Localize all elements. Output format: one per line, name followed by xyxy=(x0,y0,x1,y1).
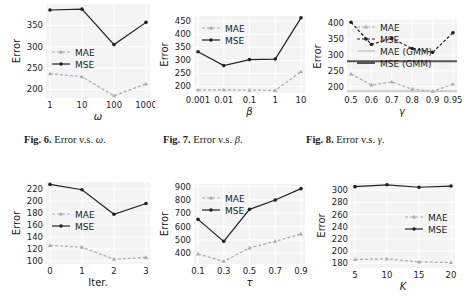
x-tick-label: 10 xyxy=(77,100,88,110)
x-tick-label: 1 xyxy=(273,95,278,105)
data-point xyxy=(48,8,52,12)
data-point xyxy=(299,187,303,191)
caption-fig8: Fig. 8. Error v.s. γ. xyxy=(306,134,384,145)
y-tick-label: 200 xyxy=(332,246,348,256)
x-tick-label: 15 xyxy=(414,270,425,280)
legend-label: MAE xyxy=(75,210,95,220)
y-axis-label: Error xyxy=(159,211,170,236)
x-tick-label: 1 xyxy=(79,266,84,276)
chart-omega: 2002503003501101001000ωErrorMAEMSE xyxy=(0,0,155,120)
data-point xyxy=(80,188,84,192)
legend-label: MAE xyxy=(225,24,245,34)
y-tick-label: 200 xyxy=(27,196,43,206)
x-tick-label: 3 xyxy=(143,266,148,276)
y-tick-label: 200 xyxy=(175,81,191,91)
y-axis-label: Error xyxy=(11,210,22,235)
y-axis-label: Error xyxy=(11,38,22,63)
y-tick-label: 400 xyxy=(175,248,191,258)
data-point xyxy=(353,185,357,189)
y-tick-label: 280 xyxy=(332,197,348,207)
x-tick-label: 10 xyxy=(382,270,393,280)
chart-k: 1802002202402602803005101520KErrorMAEMSE xyxy=(305,170,469,302)
y-tick-label: 120 xyxy=(27,244,43,254)
x-tick-label: 5 xyxy=(352,270,357,280)
y-tick-label: 900 xyxy=(175,182,191,192)
y-tick-label: 200 xyxy=(27,84,43,94)
chart-tau: 4005006007008009000.10.30.50.70.9τErrorM… xyxy=(150,170,310,302)
x-tick-label: 0 xyxy=(47,266,52,276)
y-tick-label: 250 xyxy=(328,66,344,76)
y-axis-label: Error xyxy=(316,212,327,237)
legend-label: MAE xyxy=(75,48,95,58)
chart-gamma-svg: 2002503003504000.50.60.70.80.90.95γError… xyxy=(305,0,469,120)
y-tick-label: 350 xyxy=(328,34,344,44)
legend-label: MAE xyxy=(428,213,448,223)
x-tick-label: 0.1 xyxy=(243,95,257,105)
y-tick-label: 250 xyxy=(27,63,43,73)
data-point xyxy=(144,21,148,25)
data-point xyxy=(222,240,226,244)
y-tick-label: 160 xyxy=(27,220,43,230)
legend-label: MSE xyxy=(380,35,399,45)
x-axis-label: γ xyxy=(399,106,406,117)
caption-fig8-label: Fig. 8. xyxy=(306,134,334,145)
caption-fig7-label: Fig. 7. xyxy=(163,134,191,145)
caption-fig7: Fig. 7. Error v.s. β. xyxy=(163,134,243,145)
chart-tau-svg: 4005006007008009000.10.30.50.70.9τErrorM… xyxy=(150,170,310,302)
y-tick-label: 300 xyxy=(328,50,344,60)
y-tick-label: 240 xyxy=(332,222,348,232)
x-tick-label: 0.7 xyxy=(268,266,282,276)
y-tick-label: 300 xyxy=(27,42,43,52)
data-point xyxy=(385,183,389,187)
y-tick-label: 350 xyxy=(27,20,43,30)
y-tick-label: 220 xyxy=(332,234,348,244)
x-axis-label: τ xyxy=(246,277,253,288)
x-tick-label: 1 xyxy=(47,100,52,110)
x-axis-label: ω xyxy=(94,111,102,120)
y-tick-label: 300 xyxy=(332,185,348,195)
x-axis-label: K xyxy=(400,281,408,292)
y-axis-label: Error xyxy=(159,41,170,66)
legend-label: MSE xyxy=(75,222,94,232)
chart-k-svg: 1802002202402602803005101520KErrorMAEMSE xyxy=(305,170,469,302)
data-point xyxy=(248,208,252,212)
chart-beta-svg: 2002503003504004500.0010.010.1110βErrorM… xyxy=(150,0,310,120)
plot-area xyxy=(46,182,150,264)
chart-beta: 2002503003504004500.0010.010.1110βErrorM… xyxy=(150,0,310,120)
chart-iter: 1001201401601802002200123Iter.ErrorMAEMS… xyxy=(0,170,155,302)
data-point xyxy=(370,43,374,47)
data-point xyxy=(196,218,200,222)
data-point xyxy=(273,57,277,61)
legend-label: MSE xyxy=(428,225,447,235)
data-point xyxy=(112,213,116,217)
legend-label: MAE xyxy=(380,23,400,33)
x-tick-label: 2 xyxy=(111,266,116,276)
data-point xyxy=(449,184,453,188)
legend-label: MSE (GMM) xyxy=(380,59,432,69)
x-tick-label: 0.9 xyxy=(426,95,440,105)
data-point xyxy=(349,20,353,24)
chart-iter-svg: 1001201401601802002200123Iter.ErrorMAEMS… xyxy=(0,170,155,302)
y-tick-label: 100 xyxy=(27,256,43,266)
x-tick-label: 0.001 xyxy=(186,95,210,105)
x-tick-label: 0.01 xyxy=(214,95,233,105)
x-axis-label: β xyxy=(245,106,253,117)
x-tick-label: 0.95 xyxy=(444,95,463,105)
y-tick-label: 700 xyxy=(175,208,191,218)
x-tick-label: 0.3 xyxy=(217,266,231,276)
y-tick-label: 350 xyxy=(175,42,191,52)
data-point xyxy=(451,31,455,35)
caption-fig6: Fig. 6. Error v.s. ω. xyxy=(24,134,106,145)
legend-label: MAE xyxy=(225,194,245,204)
y-tick-label: 180 xyxy=(332,258,348,268)
x-tick-label: 100 xyxy=(106,100,122,110)
data-point xyxy=(48,183,52,187)
data-point xyxy=(196,50,200,54)
x-tick-label: 20 xyxy=(446,270,457,280)
legend-label: MAE (GMM) xyxy=(380,47,432,57)
data-point xyxy=(80,7,84,11)
y-axis-label: Error xyxy=(312,43,323,68)
x-tick-label: 0.5 xyxy=(344,95,358,105)
chart-omega-svg: 2002503003501101001000ωErrorMAEMSE xyxy=(0,0,155,120)
y-tick-label: 400 xyxy=(175,29,191,39)
